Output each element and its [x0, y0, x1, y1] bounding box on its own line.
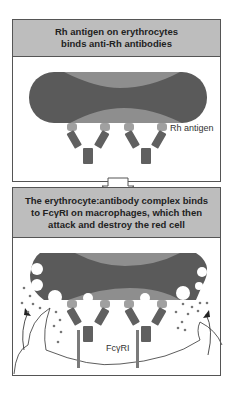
- panel-2-title-line-2: to FcγRI on macrophages, which then: [25, 207, 208, 219]
- panel-2-header: The erythrocyte:antibody complex binds t…: [13, 188, 220, 238]
- rh-antigen-label: Rh antigen: [170, 123, 214, 133]
- fc-receptor-label: FcγRI: [106, 343, 130, 353]
- panel-2-title-line-3: attack and destroy the red cell: [25, 219, 208, 231]
- erythrocyte-intact: [29, 72, 207, 123]
- antibody-1: [67, 123, 110, 164]
- panel-2-title-line-1: The erythrocyte:antibody complex binds: [25, 195, 208, 207]
- antibodies-panel-1: [67, 123, 167, 164]
- antibody-2: [124, 123, 167, 164]
